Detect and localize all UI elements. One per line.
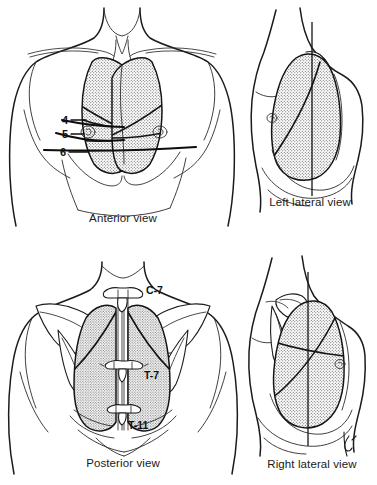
lung-landmarks-figure: 4 5 6 Anterior view	[0, 0, 377, 485]
rib-label-5: 5	[62, 128, 68, 140]
caption-left-lateral-view: Left lateral view	[269, 196, 351, 208]
caption-right-lateral-view: Right lateral view	[267, 458, 357, 470]
vertebra-label-t7: T-7	[144, 369, 159, 381]
caption-posterior-view: Posterior view	[86, 457, 160, 469]
rib-label-4: 4	[62, 114, 69, 126]
figure-canvas: 4 5 6 Anterior view	[0, 0, 377, 485]
caption-anterior-view: Anterior view	[89, 212, 157, 224]
rib-label-6: 6	[60, 146, 66, 158]
vertebra-label-c7: C-7	[146, 284, 163, 296]
